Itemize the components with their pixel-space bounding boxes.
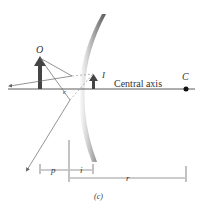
figure-caption: (c): [94, 192, 103, 201]
p-label: p: [50, 165, 56, 175]
object-arrow-shaft: [38, 64, 42, 89]
image-label: I: [101, 70, 106, 80]
object-label: O: [36, 44, 43, 55]
reflected-ray-2: [27, 100, 70, 170]
object-arrow-head: [34, 56, 46, 66]
center-point: [184, 87, 189, 92]
incident-ray-1: [40, 58, 72, 76]
center-label: C: [182, 71, 189, 82]
axis-label: Central axis: [114, 78, 162, 89]
image-arrow-head: [89, 74, 98, 81]
r-label: r: [126, 173, 130, 183]
mirror-diagram: O I c Central axis C p i r (c): [0, 0, 198, 206]
diagram-svg: O I c Central axis C p i r (c): [0, 0, 198, 206]
